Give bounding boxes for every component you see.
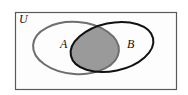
set-b-label: B bbox=[127, 37, 135, 51]
venn-diagram: U A B bbox=[0, 0, 188, 95]
universe-label: U bbox=[19, 12, 29, 26]
set-a-label: A bbox=[59, 37, 68, 51]
